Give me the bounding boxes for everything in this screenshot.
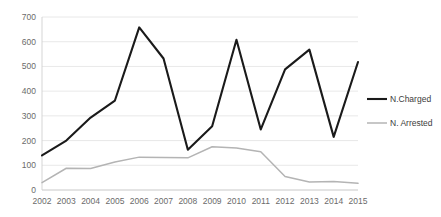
y-tick-label-0: 0 bbox=[31, 185, 36, 195]
y-tick-label-600: 600 bbox=[22, 37, 36, 47]
x-tick-label-2004: 2004 bbox=[81, 196, 100, 206]
x-tick-label-2008: 2008 bbox=[178, 196, 197, 206]
legend-label-n-charged: N.Charged bbox=[390, 94, 431, 104]
x-axis-tick-labels: 2002200320042005200620072008200920102011… bbox=[33, 196, 368, 206]
x-tick-label-2012: 2012 bbox=[276, 196, 295, 206]
x-tick-label-2005: 2005 bbox=[105, 196, 124, 206]
x-tick-label-2011: 2011 bbox=[252, 196, 271, 206]
y-tick-label-300: 300 bbox=[22, 111, 36, 121]
x-tick-label-2014: 2014 bbox=[324, 196, 343, 206]
x-tick-label-2015: 2015 bbox=[349, 196, 368, 206]
y-tick-label-400: 400 bbox=[22, 86, 36, 96]
x-tick-label-2002: 2002 bbox=[33, 196, 52, 206]
legend-label-n-arrested: N. Arrested bbox=[390, 118, 433, 128]
x-tick-label-2006: 2006 bbox=[130, 196, 149, 206]
y-axis-tick-labels: 0100200300400500600700 bbox=[22, 12, 36, 195]
x-tick-label-2007: 2007 bbox=[154, 196, 173, 206]
y-tick-label-200: 200 bbox=[22, 136, 36, 146]
gridlines bbox=[42, 17, 358, 190]
chart-legend: N.ChargedN. Arrested bbox=[367, 94, 433, 128]
x-tick-label-2009: 2009 bbox=[203, 196, 222, 206]
y-tick-label-100: 100 bbox=[22, 160, 36, 170]
line-chart: 0100200300400500600700 20022003200420052… bbox=[0, 0, 441, 217]
x-tick-label-2003: 2003 bbox=[57, 196, 76, 206]
x-tick-label-2010: 2010 bbox=[227, 196, 246, 206]
y-tick-label-500: 500 bbox=[22, 61, 36, 71]
data-series-group bbox=[42, 27, 358, 183]
y-tick-label-700: 700 bbox=[22, 12, 36, 22]
chart-canvas: 0100200300400500600700 20022003200420052… bbox=[0, 0, 441, 217]
x-tick-label-2013: 2013 bbox=[300, 196, 319, 206]
axis-lines bbox=[42, 17, 358, 190]
